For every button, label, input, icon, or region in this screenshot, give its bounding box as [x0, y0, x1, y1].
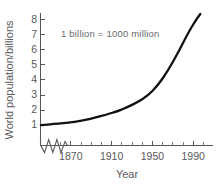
x-axis-minor-ticks: [61, 142, 204, 146]
chart-figure: 1 2 3 4 5 6 7 8: [0, 0, 217, 189]
y-tick-label-7: 7: [31, 28, 37, 40]
x-tick-label-1950: 1950: [141, 150, 165, 162]
x-axis-tick-labels: 1870 1910 1950 1990: [59, 150, 205, 162]
y-tick-label-8: 8: [31, 13, 37, 25]
y-tick-label-3: 3: [31, 88, 37, 100]
y-tick-label-4: 4: [31, 73, 37, 85]
y-axis-tick-labels: 1 2 3 4 5 6 7 8: [31, 13, 37, 131]
y-axis-ticks: [41, 20, 45, 126]
y-tick-label-6: 6: [31, 43, 37, 55]
y-axis-title: World population/billions: [3, 20, 15, 140]
y-tick-label-5: 5: [31, 58, 37, 70]
y-tick-label-2: 2: [31, 103, 37, 115]
annotation-billion-definition: 1 billion = 1000 million: [61, 28, 160, 39]
x-axis-title: Year: [116, 168, 139, 180]
x-tick-label-1910: 1910: [100, 150, 124, 162]
x-tick-label-1990: 1990: [182, 150, 206, 162]
y-tick-label-1: 1: [31, 118, 37, 130]
x-tick-label-1870: 1870: [59, 150, 83, 162]
world-population-chart: 1 2 3 4 5 6 7 8: [0, 0, 217, 189]
